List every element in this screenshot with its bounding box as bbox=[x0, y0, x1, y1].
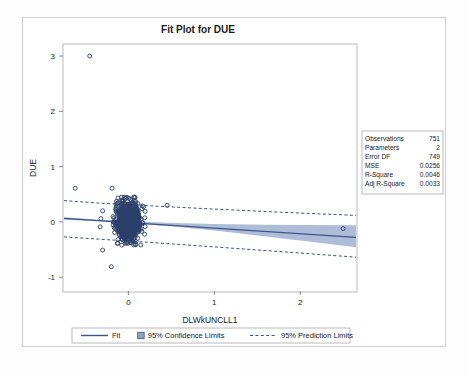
scatter-point bbox=[139, 243, 143, 247]
scatter-point bbox=[110, 186, 114, 190]
legend-label: 95% Prediction Limits bbox=[281, 331, 353, 340]
legend-label: 95% Confidence Limits bbox=[148, 331, 225, 340]
stat-label: Parameters bbox=[365, 144, 400, 151]
y-axis: -10123 bbox=[48, 52, 63, 282]
scatter-point bbox=[101, 209, 105, 213]
prediction-limit-upper bbox=[64, 201, 356, 216]
y-tick-label: 2 bbox=[51, 107, 56, 116]
screenshot-root: Fit Plot for DUE 012 -10123 DLWkU bbox=[0, 0, 467, 374]
y-tick-label: 0 bbox=[51, 218, 56, 227]
scatter-point bbox=[98, 225, 102, 229]
fit-plot-chart: Fit Plot for DUE 012 -10123 DLWkU bbox=[23, 18, 445, 346]
legend-label: Fit bbox=[112, 331, 121, 340]
scatter-point bbox=[73, 186, 77, 190]
y-tick-label: 3 bbox=[51, 52, 56, 61]
scatter-point bbox=[120, 243, 124, 247]
stat-value: 749 bbox=[429, 153, 440, 160]
x-tick-label: 1 bbox=[212, 298, 217, 307]
page-border: Fit Plot for DUE 012 -10123 DLWkU bbox=[22, 17, 446, 347]
y-tick-label: 1 bbox=[51, 163, 56, 172]
x-tick-label: 0 bbox=[126, 298, 131, 307]
stat-value: 0.0256 bbox=[420, 162, 441, 169]
legend-confidence-swatch bbox=[138, 332, 144, 338]
stat-label: Error DF bbox=[365, 153, 390, 160]
plot-frame bbox=[63, 44, 357, 292]
scatter-point bbox=[101, 248, 105, 252]
chart-legend: Fit95% Confidence Limits95% Prediction L… bbox=[72, 328, 353, 343]
statistics-box: Observations751Parameters2Error DF749MSE… bbox=[362, 131, 443, 194]
stat-label: MSE bbox=[365, 162, 380, 169]
scatter-point bbox=[143, 225, 147, 229]
scatter-point bbox=[143, 216, 147, 220]
stat-value: 2 bbox=[436, 144, 440, 151]
y-axis-label: DUE bbox=[28, 159, 38, 177]
stat-value: 0.0033 bbox=[420, 180, 441, 187]
scatter-point bbox=[88, 54, 92, 58]
scatter-point bbox=[140, 204, 144, 208]
scatter-point bbox=[109, 265, 113, 269]
x-tick-label: 2 bbox=[298, 298, 303, 307]
stat-value: 0.0046 bbox=[420, 171, 441, 178]
stat-value: 751 bbox=[429, 135, 440, 142]
y-tick-label: -1 bbox=[48, 273, 56, 282]
scatter-point bbox=[143, 232, 147, 236]
stat-label: R-Square bbox=[365, 171, 394, 179]
page-title: Fit Plot for DUE bbox=[161, 24, 235, 35]
stat-label: Adj R-Square bbox=[365, 180, 405, 188]
x-axis: 012 bbox=[126, 291, 303, 307]
stat-label: Observations bbox=[365, 135, 405, 142]
x-axis-label: DLWkUNCLL1 bbox=[182, 315, 237, 325]
